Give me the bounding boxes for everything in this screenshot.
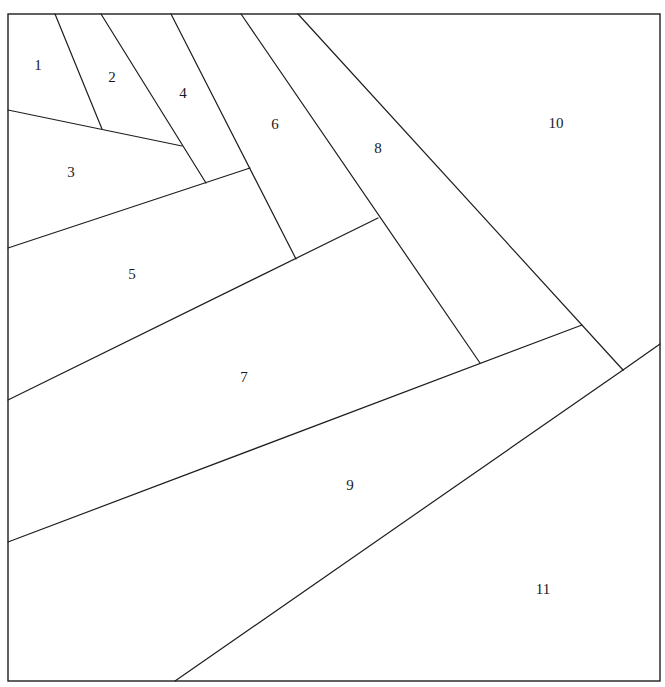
piece-label-4: 4 (179, 85, 187, 101)
piece-label-6: 6 (271, 116, 279, 132)
block-border (8, 14, 660, 681)
piece-label-10: 10 (549, 115, 564, 131)
piecing-diagram: 1234567891011 (0, 0, 665, 687)
seam-3-4-5 (8, 168, 250, 248)
seam-8-10 (298, 14, 623, 370)
piece-label-11: 11 (536, 581, 550, 597)
seam-2-4 (101, 14, 206, 183)
piece-label-2: 2 (108, 69, 116, 85)
seam-5-6-7 (8, 218, 378, 400)
seam-1-2 (55, 14, 102, 129)
seam-6-8 (241, 14, 480, 363)
seam-1-2-3 (8, 110, 182, 146)
piece-label-8: 8 (374, 140, 382, 156)
seam-9-10 (623, 344, 660, 370)
seam-4-6 (171, 14, 296, 259)
seam-11 (175, 370, 623, 681)
piece-label-7: 7 (240, 369, 248, 385)
piece-label-9: 9 (346, 477, 354, 493)
piece-labels: 1234567891011 (34, 57, 563, 597)
piece-label-1: 1 (34, 57, 42, 73)
piece-label-3: 3 (67, 164, 75, 180)
seam-lines (8, 14, 660, 681)
piece-label-5: 5 (128, 266, 136, 282)
